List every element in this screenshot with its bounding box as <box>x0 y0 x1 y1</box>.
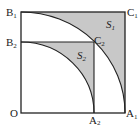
label-b2: B2 <box>6 36 17 50</box>
label-o: O <box>10 107 18 119</box>
geometry-diagram: B1 B2 C1 C2 O A2 A1 S1 S2 <box>0 0 140 125</box>
label-c1: C1 <box>127 6 138 20</box>
label-a2: A2 <box>89 114 101 125</box>
label-b1: B1 <box>6 6 17 20</box>
region-s2 <box>21 42 94 113</box>
label-a1: A1 <box>126 107 138 121</box>
